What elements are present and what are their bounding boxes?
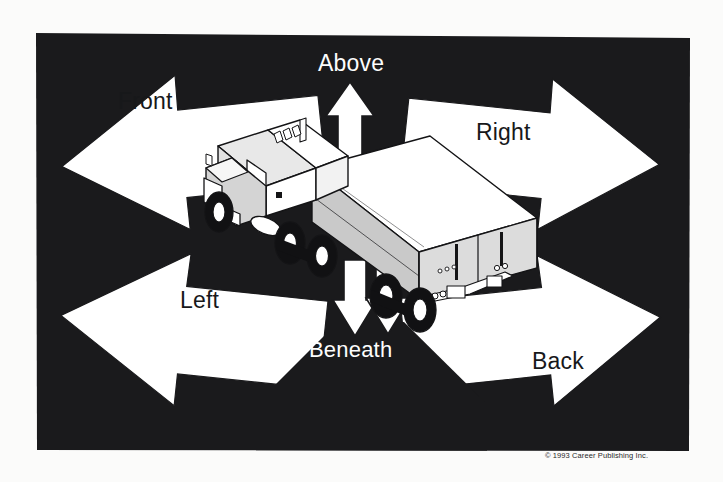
copyright-notice: © 1993 Career Publishing Inc. <box>545 451 648 460</box>
label-right: Right <box>476 119 531 146</box>
label-beneath: Beneath <box>309 337 392 363</box>
label-left: Left <box>180 287 219 314</box>
label-front: Front <box>118 88 173 115</box>
label-above: Above <box>318 50 384 77</box>
label-back: Back <box>532 348 584 375</box>
figure-canvas: Front Above Right Left Beneath Back © 19… <box>0 0 723 482</box>
